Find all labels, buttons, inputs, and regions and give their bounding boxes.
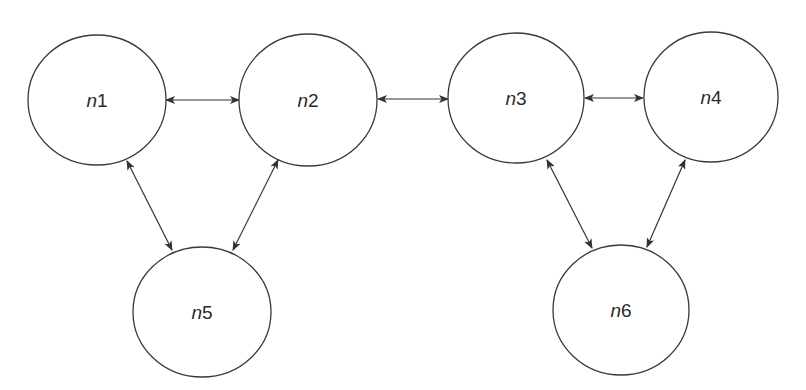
node-label-n2: n2: [297, 91, 318, 110]
node-label-variable: n: [610, 300, 621, 321]
node-label-variable: n: [191, 302, 202, 323]
node-label-index: 6: [621, 300, 632, 321]
edges-layer: [127, 98, 685, 250]
node-label-index: 1: [97, 90, 108, 111]
node-label-index: 5: [202, 302, 213, 323]
node-label-index: 2: [308, 90, 319, 111]
node-label-index: 4: [711, 87, 722, 108]
network-diagram: n1n2n3n4n5n6: [0, 0, 806, 390]
bidirectional-arrow-n2-n5: [233, 160, 278, 250]
bidirectional-arrow-n4-n6: [647, 160, 685, 247]
bidirectional-arrow-n1-n5: [127, 161, 172, 250]
node-label-index: 3: [516, 88, 527, 109]
node-label-n6: n6: [610, 301, 631, 320]
node-label-variable: n: [700, 87, 711, 108]
bidirectional-arrow-n3-n6: [547, 160, 592, 248]
node-label-n3: n3: [505, 89, 526, 108]
node-label-n1: n1: [86, 91, 107, 110]
node-label-n5: n5: [191, 303, 212, 322]
node-label-variable: n: [505, 88, 516, 109]
diagram-canvas: [0, 0, 806, 390]
node-label-variable: n: [86, 90, 97, 111]
node-label-n4: n4: [700, 88, 721, 107]
node-label-variable: n: [297, 90, 308, 111]
